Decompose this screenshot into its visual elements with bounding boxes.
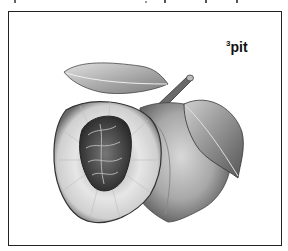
pit-label: 3pit [226, 39, 248, 55]
leaf-top [64, 63, 168, 94]
label-text: pit [230, 39, 247, 55]
peach-illustration [0, 0, 288, 251]
